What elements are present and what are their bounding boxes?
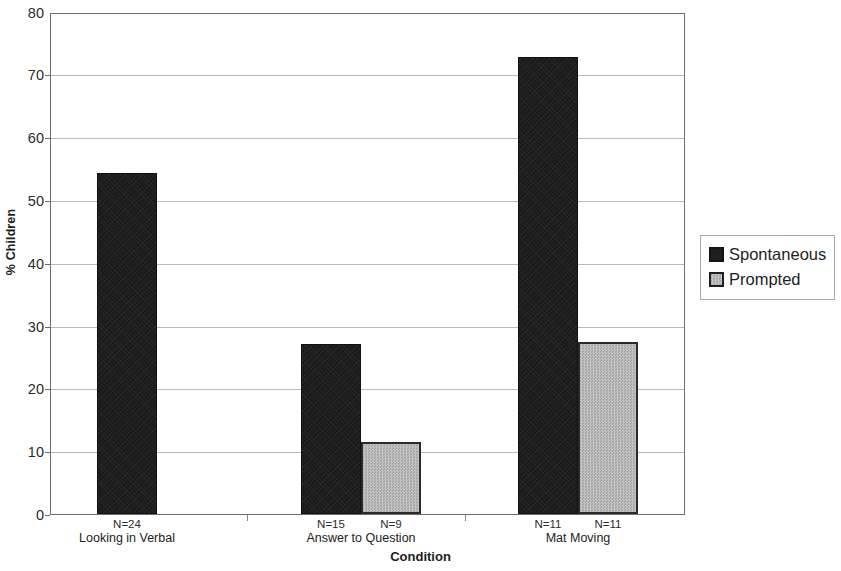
legend: Spontaneous Prompted: [700, 235, 835, 300]
gray-square-swatch-icon: [709, 272, 724, 287]
y-tick-label-70: 70: [0, 68, 44, 83]
dark-square-swatch-icon: [709, 247, 724, 262]
legend-item-spontaneous[interactable]: Spontaneous: [709, 242, 826, 267]
n-label-answer-to-question-prompted: N=9: [380, 518, 401, 531]
gridline-70: [51, 75, 684, 76]
x-group-label-mat-moving: Mat Moving: [546, 531, 611, 545]
bar-answer-to-question-spontaneous: [301, 344, 361, 514]
n-label-looking-in-verbal-spontaneous: N=24: [113, 518, 141, 531]
legend-item-prompted[interactable]: Prompted: [709, 267, 826, 292]
y-tick-label-30: 30: [0, 320, 44, 335]
y-tick-mark-0: [45, 515, 50, 516]
n-label-answer-to-question-spontaneous: N=15: [317, 518, 345, 531]
x-group-label-answer-to-question: Answer to Question: [306, 531, 415, 545]
bar-chart-figure: 80 70 60 50 40 30 20 10 0 % Children: [0, 0, 841, 571]
bar-answer-to-question-prompted: [361, 442, 421, 514]
y-tick-label-20: 20: [0, 382, 44, 397]
bar-mat-moving-prompted: [578, 342, 638, 514]
y-tick-label-80: 80: [0, 6, 44, 21]
x-axis-title: Condition: [0, 549, 841, 564]
x-tick-mark-2: [465, 515, 466, 521]
gridline-60: [51, 138, 684, 139]
y-tick-label-10: 10: [0, 445, 44, 460]
bar-mat-moving-spontaneous: [518, 57, 578, 514]
y-tick-label-0: 0: [0, 508, 44, 523]
n-label-mat-moving-spontaneous: N=11: [535, 518, 562, 531]
legend-label-spontaneous: Spontaneous: [729, 246, 826, 263]
plot-area: [50, 13, 685, 515]
x-group-label-looking-in-verbal: Looking in Verbal: [79, 531, 175, 545]
y-tick-label-60: 60: [0, 131, 44, 146]
y-axis-title: % Children: [4, 202, 18, 282]
legend-label-prompted: Prompted: [729, 271, 801, 288]
x-tick-mark-1: [247, 515, 248, 521]
n-label-mat-moving-prompted: N=11: [595, 518, 622, 531]
bar-looking-in-verbal-spontaneous: [97, 173, 157, 514]
